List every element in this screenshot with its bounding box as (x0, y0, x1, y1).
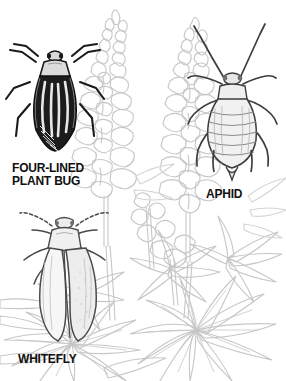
whitefly-wing-right (66, 248, 96, 341)
label-four-lined-plant-bug-line2: PLANT BUG (12, 174, 80, 188)
label-whitefly: WHITEFLY (18, 353, 77, 366)
whitefly-eye-right (70, 221, 74, 225)
whitefly-eye-left (55, 221, 59, 225)
whitefly-wing-left (40, 248, 66, 341)
whitefly-illustration (0, 0, 286, 381)
label-four-lined-plant-bug: FOUR-LINEDPLANT BUG (12, 162, 84, 187)
pest-identification-figure: FOUR-LINEDPLANT BUG APHID WHITEFLY (0, 0, 286, 381)
whitefly-body (40, 218, 97, 342)
label-aphid: APHID (206, 188, 242, 201)
